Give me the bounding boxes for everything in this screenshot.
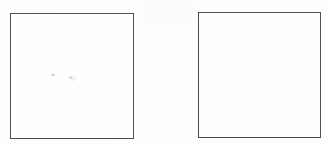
scanned-page: [0, 0, 329, 144]
left-answer-box[interactable]: [10, 13, 134, 139]
right-answer-box[interactable]: [198, 12, 321, 138]
